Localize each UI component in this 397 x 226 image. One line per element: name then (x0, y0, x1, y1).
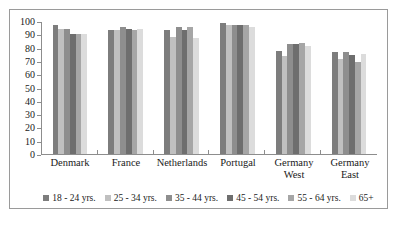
x-axis-label: GermanyEast (322, 157, 378, 180)
y-axis-tick (37, 89, 41, 90)
bar-group (209, 22, 265, 154)
bar-group (321, 22, 377, 154)
legend-swatch-icon (43, 195, 49, 201)
legend-swatch-icon (288, 195, 294, 201)
bar-group-bars (164, 22, 199, 154)
legend-label: 65+ (359, 193, 374, 203)
chart-figure: 1009080706050403020100 DenmarkFranceNeth… (0, 0, 397, 226)
legend-swatch-icon (166, 195, 172, 201)
bar-group (98, 22, 154, 154)
bar-group (265, 22, 321, 154)
bar (81, 34, 87, 154)
bar-group-bars (332, 22, 367, 154)
legend-label: 35 - 44 yrs. (175, 193, 218, 203)
x-axis-label: Netherlands (154, 157, 210, 180)
legend-swatch-icon (227, 195, 233, 201)
x-axis-label-line: Denmark (42, 157, 98, 169)
y-axis-tick-label: 30 (25, 110, 35, 120)
legend-swatch-icon (350, 195, 356, 201)
legend-label: 45 - 54 yrs. (236, 193, 279, 203)
x-axis-label-line: Germany (266, 157, 322, 169)
y-axis-tick (37, 22, 41, 23)
x-axis-label: Portugal (210, 157, 266, 180)
x-axis-label: France (98, 157, 154, 180)
bar (137, 29, 143, 154)
y-axis-tick (37, 142, 41, 143)
bar-group-bars (108, 22, 143, 154)
y-axis-tick-label: 80 (25, 44, 35, 54)
y-axis-tick (37, 128, 41, 129)
y-axis-tick (37, 155, 41, 156)
bar (361, 54, 367, 154)
chart-legend: 18 - 24 yrs.25 - 34 yrs.35 - 44 yrs.45 -… (20, 193, 397, 203)
y-axis-tick-label: 90 (25, 30, 35, 40)
x-axis-category-labels: DenmarkFranceNetherlandsPortugalGermanyW… (42, 157, 378, 180)
bar-group (154, 22, 210, 154)
x-axis-label-line: East (322, 169, 378, 181)
x-axis-label-line: France (98, 157, 154, 169)
chart-frame: 1009080706050403020100 DenmarkFranceNeth… (9, 9, 388, 209)
y-axis-tick (37, 75, 41, 76)
y-axis-tick (37, 102, 41, 103)
bar-groups (42, 22, 377, 154)
y-axis-tick-label: 70 (25, 57, 35, 67)
legend-item[interactable]: 55 - 64 yrs. (288, 193, 340, 203)
y-axis-tick-label: 60 (25, 70, 35, 80)
x-axis-label-line: Netherlands (154, 157, 210, 169)
x-axis-label-line: Portugal (210, 157, 266, 169)
x-axis-line (41, 154, 377, 155)
legend-item[interactable]: 65+ (350, 193, 374, 203)
legend-item[interactable]: 25 - 34 yrs. (105, 193, 157, 203)
y-axis-tick-label: 100 (20, 17, 35, 27)
y-axis-tick-label: 10 (25, 137, 35, 147)
legend-item[interactable]: 35 - 44 yrs. (166, 193, 218, 203)
x-axis-label-line: West (266, 169, 322, 181)
bar (193, 38, 199, 154)
legend-item[interactable]: 18 - 24 yrs. (43, 193, 95, 203)
y-axis-tick (37, 62, 41, 63)
y-axis-tick-label: 40 (25, 97, 35, 107)
legend-swatch-icon (105, 195, 111, 201)
x-axis-label: Denmark (42, 157, 98, 180)
y-axis-tick-label: 0 (30, 150, 35, 160)
y-axis-tick (37, 115, 41, 116)
x-axis-label: GermanyWest (266, 157, 322, 180)
y-axis-tick (37, 49, 41, 50)
legend-label: 18 - 24 yrs. (52, 193, 95, 203)
bar-group-bars (53, 22, 88, 154)
y-axis-tick-label: 20 (25, 123, 35, 133)
bar-group-bars (220, 22, 255, 154)
bar (249, 27, 255, 154)
y-axis-tick (37, 35, 41, 36)
legend-item[interactable]: 45 - 54 yrs. (227, 193, 279, 203)
y-axis-tick-label: 50 (25, 84, 35, 94)
plot-area: 1009080706050403020100 (41, 22, 377, 155)
legend-label: 55 - 64 yrs. (297, 193, 340, 203)
bar-group (42, 22, 98, 154)
legend-label: 25 - 34 yrs. (114, 193, 157, 203)
x-axis-label-line: Germany (322, 157, 378, 169)
bar-group-bars (276, 22, 311, 154)
bar (305, 46, 311, 154)
